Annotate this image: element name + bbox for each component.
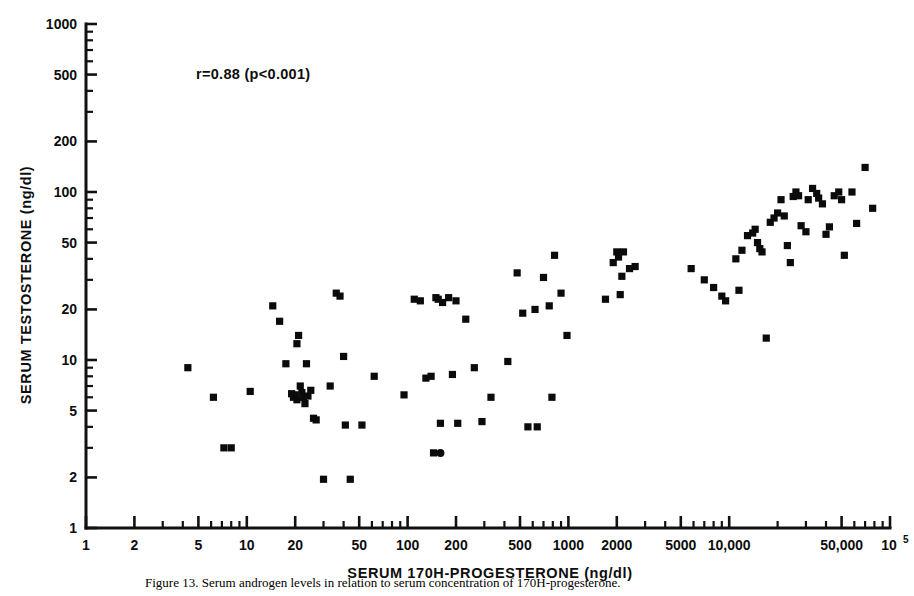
y-tick-label: 10: [61, 352, 77, 368]
ticks-group: [86, 24, 890, 528]
data-point: [618, 273, 625, 280]
figure-container: 1251020501002005001000125102050100200500…: [0, 0, 914, 596]
data-point: [340, 353, 347, 360]
data-point: [632, 263, 639, 270]
data-point: [869, 205, 876, 212]
data-point: [295, 332, 302, 339]
y-tick-label: 20: [61, 301, 77, 317]
data-point: [220, 444, 227, 451]
data-point: [427, 373, 434, 380]
y-tick-label: 50: [61, 235, 77, 251]
data-point: [301, 400, 308, 407]
data-point: [835, 188, 842, 195]
data-point: [688, 265, 695, 272]
data-point: [454, 420, 461, 427]
data-point: [327, 382, 334, 389]
data-point: [752, 226, 759, 233]
data-point: [534, 423, 541, 430]
data-point: [546, 302, 553, 309]
data-point: [819, 200, 826, 207]
data-point: [297, 382, 304, 389]
data-point: [777, 196, 784, 203]
data-point: [563, 332, 570, 339]
data-point: [710, 284, 717, 291]
data-point: [307, 387, 314, 394]
data-point: [276, 318, 283, 325]
data-point: [617, 291, 624, 298]
x-tick-label: 10: [881, 537, 897, 553]
data-point: [784, 242, 791, 249]
data-points-group: [184, 164, 876, 483]
data-point: [620, 248, 627, 255]
data-point: [853, 220, 860, 227]
data-point: [531, 306, 538, 313]
y-tick-label: 1000: [46, 16, 77, 32]
scatter-plot: 1251020501002005001000125102050100200500…: [0, 0, 914, 596]
tick-labels-group: 1251020501002005001000125102050100200500…: [46, 16, 909, 553]
data-point: [269, 302, 276, 309]
figure-caption: Figure 13. Serum androgen levels in rela…: [145, 575, 620, 591]
data-point: [445, 294, 452, 301]
data-point: [826, 223, 833, 230]
x-tick-label: 10,000: [708, 537, 751, 553]
y-tick-label: 5: [69, 403, 77, 419]
data-point: [293, 340, 300, 347]
data-point: [524, 423, 531, 430]
data-point: [449, 371, 456, 378]
data-point: [184, 364, 191, 371]
y-tick-label: 500: [54, 67, 78, 83]
data-point: [430, 449, 437, 456]
y-axis-title: SERUM TESTOSTERONE (ng/dl): [18, 166, 34, 404]
data-point: [848, 188, 855, 195]
data-point: [313, 416, 320, 423]
data-point: [787, 259, 794, 266]
data-point: [282, 360, 289, 367]
data-point: [303, 360, 310, 367]
data-point: [478, 418, 485, 425]
data-point: [758, 248, 765, 255]
data-point: [602, 296, 609, 303]
data-point: [805, 196, 812, 203]
x-tick-label: 100: [396, 537, 420, 553]
x-tick-label: 50: [351, 537, 367, 553]
data-point: [738, 247, 745, 254]
correlation-annotation: r=0.88 (p<0.001): [196, 66, 310, 82]
data-point: [838, 196, 845, 203]
data-point: [557, 290, 564, 297]
data-point: [540, 274, 547, 281]
data-point: [841, 252, 848, 259]
data-point: [228, 444, 235, 451]
data-point: [437, 420, 444, 427]
data-point: [247, 388, 254, 395]
data-point: [822, 231, 829, 238]
data-point: [763, 335, 770, 342]
data-point: [462, 316, 469, 323]
x-tick-label: 50,000: [820, 537, 863, 553]
data-point: [342, 421, 349, 428]
data-point: [471, 364, 478, 371]
data-point: [551, 252, 558, 259]
y-tick-label: 1: [69, 520, 77, 536]
figure-caption-region: Figure 13. Serum androgen levels in rela…: [0, 575, 914, 596]
data-point: [371, 373, 378, 380]
axes-group: [86, 24, 890, 528]
x-tick-label: 1: [82, 537, 90, 553]
x-tick-label-exponent: 5: [903, 534, 909, 545]
x-tick-label: 500: [508, 537, 532, 553]
x-tick-label: 200: [444, 537, 468, 553]
data-point: [504, 358, 511, 365]
data-point: [210, 394, 217, 401]
x-tick-label: 5: [194, 537, 202, 553]
data-point: [722, 297, 729, 304]
data-point: [802, 228, 809, 235]
data-point: [861, 164, 868, 171]
data-point: [774, 209, 781, 216]
data-point: [487, 394, 494, 401]
data-point: [735, 287, 742, 294]
data-point: [514, 269, 521, 276]
data-point: [358, 421, 365, 428]
data-point: [732, 255, 739, 262]
data-point: [701, 276, 708, 283]
data-point: [452, 297, 459, 304]
data-point: [519, 310, 526, 317]
